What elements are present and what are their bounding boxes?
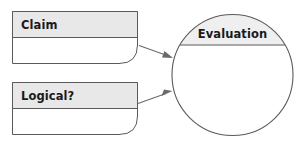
connector-claim-line bbox=[139, 46, 167, 56]
node-logical-label: Logical? bbox=[21, 89, 74, 103]
connector-logical-line bbox=[138, 94, 166, 104]
connector-logical-arrowhead bbox=[162, 90, 173, 97]
node-claim-label: Claim bbox=[21, 18, 58, 32]
node-evaluation[interactable]: Evaluation bbox=[170, 12, 296, 136]
node-evaluation-label: Evaluation bbox=[198, 27, 268, 41]
connector-claim-arrowhead bbox=[162, 51, 173, 58]
diagram-canvas: Claim Logical? Evaluation bbox=[0, 0, 298, 148]
connector-logical-to-evaluation bbox=[138, 90, 173, 104]
node-logical[interactable]: Logical? bbox=[13, 83, 138, 135]
diagram-surface: Claim Logical? Evaluation bbox=[0, 0, 298, 148]
node-claim[interactable]: Claim bbox=[13, 12, 138, 64]
connector-claim-to-evaluation bbox=[139, 46, 173, 59]
